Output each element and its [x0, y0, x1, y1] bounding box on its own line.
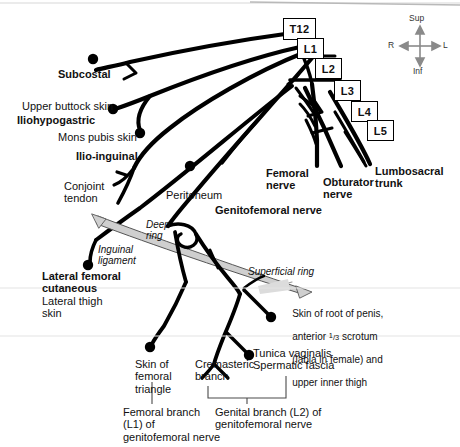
compass-label-left: L — [443, 40, 448, 50]
label-upper-buttock-skin: Upper buttock skin — [22, 100, 113, 112]
vertebral-box-t12[interactable]: T12 — [283, 18, 316, 40]
skin-root-line2-post: scrotum — [339, 331, 377, 342]
inguinal-canal-upper-wall — [196, 234, 240, 294]
label-femoral-nerve: Femoral nerve — [266, 167, 309, 192]
caption-genital-branch: Genital branch (L2) of genitofemoral ner… — [215, 406, 321, 431]
label-conjoint-tendon: Conjoint tendon — [64, 180, 104, 205]
genital-branch-tunica-path — [226, 332, 246, 352]
inguinal-canal-lower-wall — [175, 232, 186, 282]
skin-root-line4: upper inner thigh — [292, 377, 367, 388]
label-lateral-femoral-cutaneous: Lateral femoral cutaneous — [42, 270, 121, 295]
vertebral-box-l2[interactable]: L2 — [315, 58, 342, 79]
genital-branch-trunk — [214, 294, 240, 364]
label-subcostal: Subcostal — [58, 68, 111, 80]
genital-branch-skin-path — [244, 290, 268, 314]
caption-femoral-branch: Femoral branch (L1) of genitofemoral ner… — [123, 406, 220, 443]
label-lateral-thigh-skin: Lateral thigh skin — [42, 295, 103, 320]
skin-root-line1: Skin of root of penis, — [292, 308, 383, 319]
compass-arrow-sup — [416, 26, 424, 34]
compass-rose — [400, 26, 440, 66]
vertebral-box-l5[interactable]: L5 — [367, 120, 394, 141]
label-inguinal-ligament: Inguinal ligament — [98, 244, 136, 267]
label-genitofemoral-nerve: Genitofemoral nerve — [215, 204, 322, 216]
label-tunica-vaginalis: Tunica vaginalis Spermatic fascia — [253, 347, 334, 372]
label-deep-ring: Deep ring — [146, 219, 170, 242]
l1-l2-connector — [288, 72, 300, 84]
fraction-one-third: 1/3 — [329, 333, 339, 342]
label-superficial-ring: Superficial ring — [248, 266, 314, 277]
diagram-canvas: T12 L1 L2 L3 L4 L5 Sup Inf R L Subcostal… — [0, 0, 460, 447]
compass-arrow-left — [432, 42, 440, 50]
dot-peritoneum — [185, 161, 195, 171]
label-skin-femoral-triangle: Skin of femoral triangle — [135, 358, 172, 395]
compass-arrow-right — [400, 42, 408, 50]
label-lumbosacral-trunk: Lumbosacral trunk — [375, 165, 443, 190]
label-ilioinguinal: Ilio-inguinal — [76, 150, 138, 162]
compass-label-superior: Sup — [409, 13, 424, 23]
vertebral-box-l3[interactable]: L3 — [334, 80, 361, 101]
label-peritoneum: Peritoneum — [166, 189, 222, 201]
subcostal-fork — [124, 63, 136, 79]
skin-root-line2-pre: anterior — [292, 331, 329, 342]
label-cremasteric-branch: Cremasteric branch — [195, 358, 254, 383]
dot-skin-root-penis — [266, 312, 276, 322]
compass-label-right: R — [388, 40, 394, 50]
compass-arrow-inf — [416, 58, 424, 66]
dot-skin-femoral-triangle — [145, 342, 155, 352]
lfc-terminal — [90, 240, 96, 262]
label-mons-pubis-skin: Mons pubis skin — [58, 131, 137, 143]
dot-lateral-thigh-skin — [83, 260, 93, 270]
femoral-branch-path — [152, 282, 186, 344]
vertebral-box-l4[interactable]: L4 — [351, 101, 378, 122]
vertebral-box-l1[interactable]: L1 — [297, 38, 324, 59]
label-obturator-nerve: Obturator nerve — [323, 176, 374, 201]
compass-label-inferior: Inf — [413, 66, 422, 76]
label-iliohypogastric: Iliohypogastric — [17, 114, 95, 126]
dot-subcostal — [88, 54, 98, 64]
